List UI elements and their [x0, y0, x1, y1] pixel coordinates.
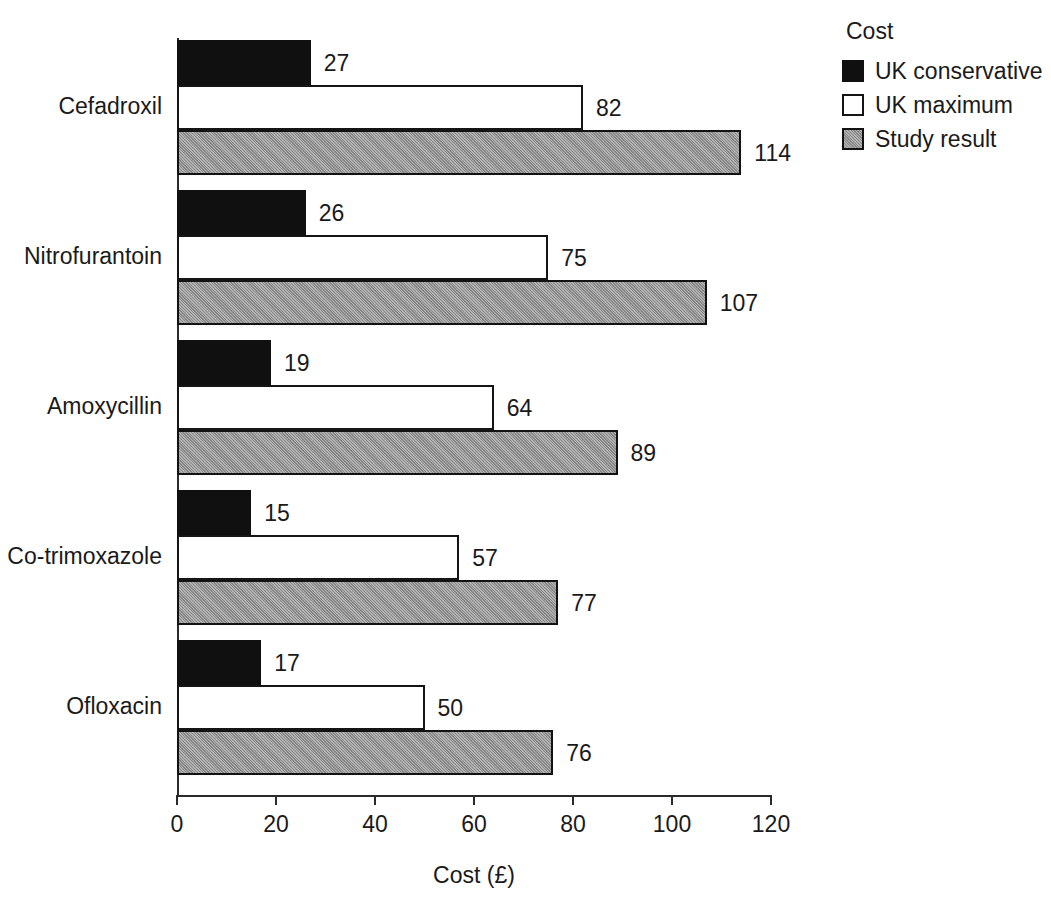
- bar-value-label: 19: [284, 352, 310, 375]
- bar-co-trimoxazole-uk-maximum: [177, 535, 459, 580]
- bar-value-label: 64: [507, 397, 533, 420]
- x-tick-40: [374, 795, 376, 805]
- bar-value-label: 26: [319, 202, 345, 225]
- legend-item-label: Study result: [875, 126, 996, 153]
- bar-nitrofurantoin-uk-conservative: [177, 190, 306, 235]
- bar-value-label: 57: [472, 547, 498, 570]
- chart-page: 020406080100120 Cost (£) CefadroxilNitro…: [0, 0, 1051, 909]
- x-tick-label-0: 0: [171, 810, 184, 838]
- category-label-cefadroxil: Cefadroxil: [0, 93, 162, 120]
- bar-value-label: 27: [324, 52, 350, 75]
- bar-amoxycillin-uk-conservative: [177, 340, 271, 385]
- legend-swatch-icon: [842, 94, 864, 116]
- bar-cefadroxil-uk-maximum: [177, 85, 583, 130]
- x-tick-80: [572, 795, 574, 805]
- x-tick-0: [176, 795, 178, 805]
- category-label-co-trimoxazole: Co-trimoxazole: [0, 543, 162, 570]
- x-tick-label-20: 20: [263, 810, 289, 838]
- bar-cefadroxil-uk-conservative: [177, 40, 311, 85]
- x-tick-label-60: 60: [461, 810, 487, 838]
- legend-item-label: UK conservative: [875, 58, 1042, 85]
- bar-value-label: 75: [561, 247, 587, 270]
- bar-value-label: 107: [720, 292, 758, 315]
- legend: Cost UK conservativeUK maximumStudy resu…: [842, 18, 1047, 157]
- category-label-amoxycillin: Amoxycillin: [0, 393, 162, 420]
- x-tick-100: [671, 795, 673, 805]
- x-tick-label-80: 80: [560, 810, 586, 838]
- bar-value-label: 89: [631, 442, 657, 465]
- bar-amoxycillin-uk-maximum: [177, 385, 494, 430]
- legend-item-uk-maximum[interactable]: UK maximum: [842, 89, 1047, 121]
- bar-value-label: 17: [274, 652, 300, 675]
- bar-ofloxacin-uk-conservative: [177, 640, 261, 685]
- bar-value-label: 114: [754, 142, 791, 165]
- bar-ofloxacin-uk-maximum: [177, 685, 425, 730]
- bar-co-trimoxazole-uk-conservative: [177, 490, 251, 535]
- x-tick-120: [770, 795, 772, 805]
- bar-nitrofurantoin-uk-maximum: [177, 235, 548, 280]
- bar-co-trimoxazole-study-result: [177, 580, 558, 625]
- legend-swatch-icon: [842, 128, 864, 150]
- legend-item-uk-conservative[interactable]: UK conservative: [842, 55, 1047, 87]
- bar-value-label: 15: [264, 502, 290, 525]
- bar-value-label: 50: [438, 697, 464, 720]
- x-tick-label-40: 40: [362, 810, 388, 838]
- x-tick-20: [275, 795, 277, 805]
- x-axis-title: Cost (£): [177, 862, 771, 889]
- bar-value-label: 76: [566, 742, 592, 765]
- x-tick-label-100: 100: [653, 810, 691, 838]
- bar-ofloxacin-study-result: [177, 730, 553, 775]
- bar-cefadroxil-study-result: [177, 130, 741, 175]
- legend-swatch-icon: [842, 60, 864, 82]
- bar-nitrofurantoin-study-result: [177, 280, 707, 325]
- legend-item-label: UK maximum: [875, 92, 1013, 119]
- legend-rows: UK conservativeUK maximumStudy result: [842, 55, 1047, 155]
- bar-amoxycillin-study-result: [177, 430, 618, 475]
- legend-title: Cost: [846, 18, 1047, 45]
- bar-value-label: 77: [571, 592, 597, 615]
- bar-value-label: 82: [596, 97, 622, 120]
- legend-item-study-result[interactable]: Study result: [842, 123, 1047, 155]
- x-tick-60: [473, 795, 475, 805]
- category-label-nitrofurantoin: Nitrofurantoin: [0, 243, 162, 270]
- category-label-ofloxacin: Ofloxacin: [0, 693, 162, 720]
- x-tick-label-120: 120: [752, 810, 790, 838]
